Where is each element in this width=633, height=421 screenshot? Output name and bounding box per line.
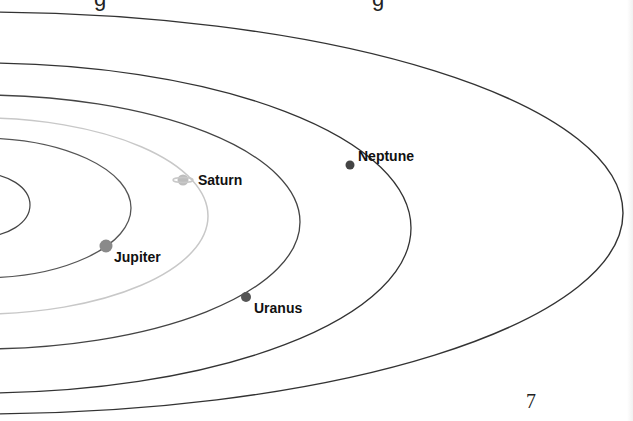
saturn-label: Saturn bbox=[198, 172, 242, 188]
jupiter-planet-icon bbox=[100, 240, 113, 253]
neptune-planet-icon bbox=[346, 161, 355, 170]
inner-orbit bbox=[0, 173, 30, 237]
solar-system-orbit-diagram bbox=[0, 0, 633, 421]
uranus-planet-icon bbox=[241, 292, 251, 302]
jupiter-label: Jupiter bbox=[114, 249, 161, 265]
page-number: 7 bbox=[526, 390, 536, 413]
neptune-orbit bbox=[0, 63, 411, 393]
saturn-orbit bbox=[0, 118, 208, 314]
outer-orbit bbox=[0, 12, 623, 414]
uranus-label: Uranus bbox=[254, 300, 302, 316]
saturn-planet-icon bbox=[173, 175, 193, 186]
jupiter-orbit bbox=[0, 138, 131, 278]
neptune-label: Neptune bbox=[358, 148, 414, 164]
